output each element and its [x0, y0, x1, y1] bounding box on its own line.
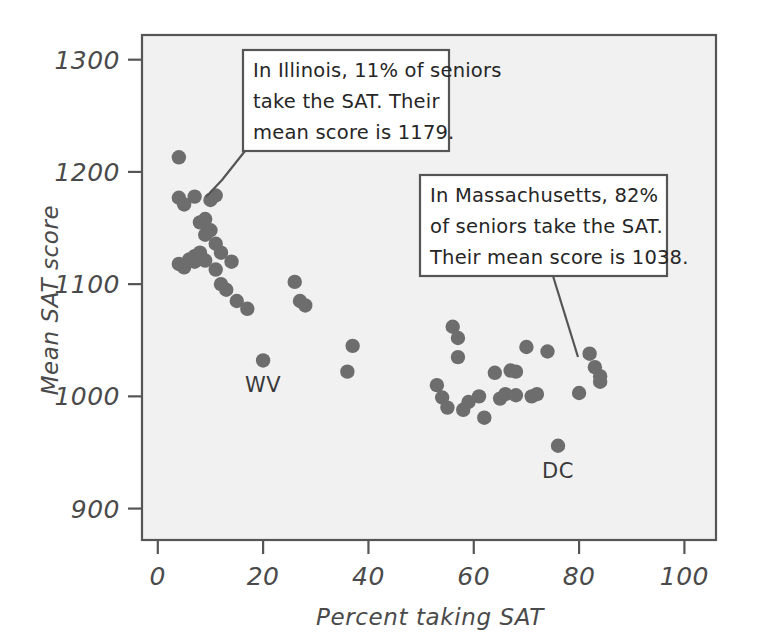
data-point	[345, 339, 359, 353]
x-tick-label: 100	[660, 562, 709, 591]
scatter-plot-figure: 9001000110012001300 020406080100 Mean SA…	[0, 0, 758, 644]
annotation-illinois-line-2: take the SAT. Their	[253, 90, 440, 113]
data-point	[219, 283, 233, 297]
x-tick-label: 40	[352, 562, 385, 591]
annotation-illinois-line-3: mean score is 1179.	[253, 121, 455, 144]
x-tick-label: 0	[150, 562, 166, 591]
data-point	[430, 378, 444, 392]
x-tick-label: 20	[247, 562, 280, 591]
x-axis-title: Percent taking SAT	[316, 604, 545, 630]
annotation-illinois-line-1: In Illinois, 11% of seniors	[253, 59, 502, 82]
data-point	[509, 364, 523, 378]
data-point	[572, 386, 586, 400]
annotation-massachusetts-line-3: Their mean score is 1038.	[429, 246, 689, 269]
data-point	[440, 400, 454, 414]
annotation-massachusetts-line-2: of seniors take the SAT.	[430, 215, 663, 238]
data-point	[288, 275, 302, 289]
data-point	[540, 344, 554, 358]
data-point	[519, 340, 533, 354]
data-point	[203, 223, 217, 237]
point-label-dc: DC	[542, 459, 574, 483]
data-point	[451, 331, 465, 345]
data-point	[298, 298, 312, 312]
data-point	[477, 410, 491, 424]
data-point	[488, 366, 502, 380]
data-point	[256, 353, 270, 367]
data-point	[187, 189, 201, 203]
y-tick-label: 1000	[54, 382, 120, 411]
annotation-massachusetts-line-1: In Massachusetts, 82%	[430, 184, 658, 207]
data-point	[172, 150, 186, 164]
y-tick-label: 1200	[54, 158, 120, 187]
data-point	[582, 347, 596, 361]
data-point	[509, 388, 523, 402]
x-tick-label: 80	[563, 562, 596, 591]
data-point	[472, 389, 486, 403]
data-point	[551, 439, 565, 453]
data-point	[340, 364, 354, 378]
x-tick-label: 60	[457, 562, 490, 591]
y-tick-label: 1100	[54, 270, 120, 299]
annotation-massachusetts[interactable]: In Massachusetts, 82% of seniors take th…	[420, 175, 689, 276]
y-tick-label: 900	[71, 495, 120, 524]
data-point	[530, 387, 544, 401]
data-point	[240, 302, 254, 316]
y-tick-label: 1300	[54, 46, 120, 75]
data-point	[224, 254, 238, 268]
point-label-wv: WV	[245, 373, 281, 397]
data-point	[451, 350, 465, 364]
data-point	[209, 262, 223, 276]
data-point	[593, 375, 607, 389]
y-axis-title: Mean SAT score	[37, 205, 63, 396]
